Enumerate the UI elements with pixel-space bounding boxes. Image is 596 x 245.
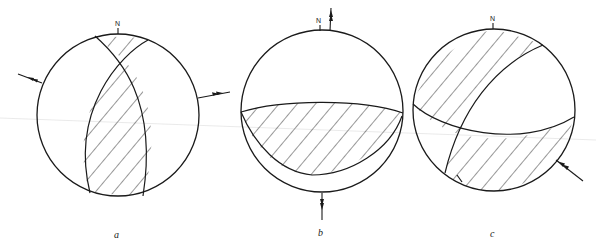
compressional-quadrant-upper xyxy=(413,29,542,134)
north-label: N xyxy=(316,17,321,24)
panel-label-c: c xyxy=(490,228,495,239)
panel-c: N c xyxy=(413,15,583,239)
panel-b: N b xyxy=(241,8,403,238)
focal-mechanism-figure: N a N xyxy=(0,0,596,245)
north-label: N xyxy=(490,15,495,22)
north-label: N xyxy=(115,20,120,27)
panel-label-a: a xyxy=(114,229,119,240)
panel-a: N a xyxy=(18,20,230,240)
arrow-down-outward-icon xyxy=(320,193,324,220)
compressional-quadrant xyxy=(241,102,403,175)
panel-b-hatched-regions xyxy=(241,102,403,175)
arrow-left-outward-icon xyxy=(18,74,42,83)
panel-label-b: b xyxy=(318,227,323,238)
arrow-up-outward-icon xyxy=(329,8,333,31)
arrow-right-outward-icon xyxy=(198,92,230,99)
arrow-inward-icon xyxy=(556,160,583,181)
compressional-quadrant-central xyxy=(83,58,151,196)
